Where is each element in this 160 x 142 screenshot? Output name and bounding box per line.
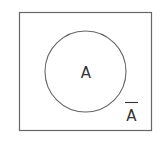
venn-diagram: A A <box>0 0 160 142</box>
set-a-label: A <box>81 64 92 82</box>
complement-label: A <box>126 107 137 125</box>
